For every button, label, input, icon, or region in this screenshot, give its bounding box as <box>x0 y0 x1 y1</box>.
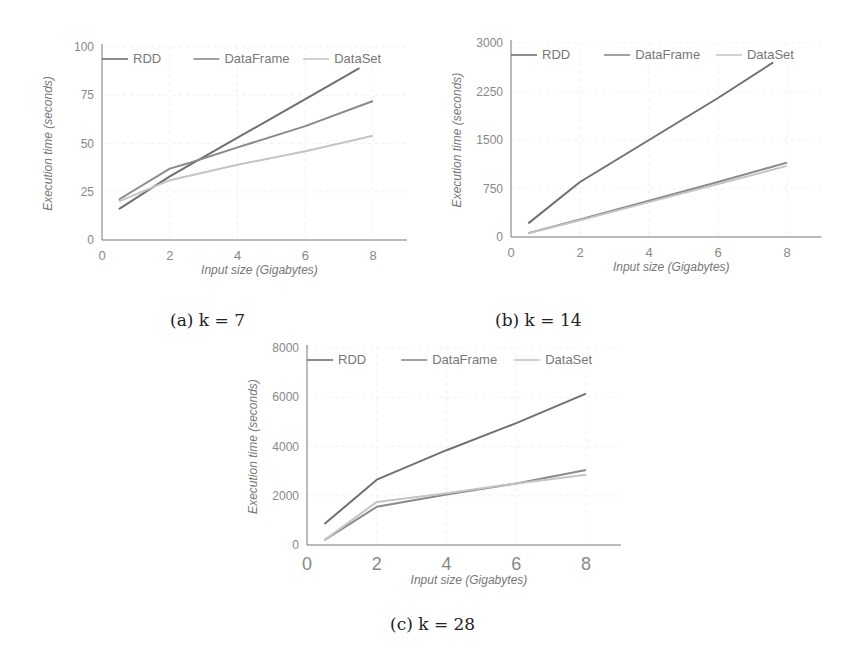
x-tick-label: 2 <box>372 554 382 574</box>
y-tick-label: 4000 <box>272 440 299 454</box>
line-chart-c: 0200040006000800002468Input size (Gigaby… <box>0 0 853 663</box>
chart-panel-c: 0200040006000800002468Input size (Gigaby… <box>0 0 853 663</box>
caption-c: (c) k = 28 <box>390 614 475 634</box>
y-axis-label: Execution time (seconds) <box>246 379 260 514</box>
legend-label-rdd: RDD <box>338 352 366 367</box>
grid <box>307 348 621 545</box>
legend: RDDDataFrameDataSet <box>307 352 593 367</box>
y-tick-label: 6000 <box>272 390 299 404</box>
y-tick-label: 2000 <box>272 489 299 503</box>
x-tick-label: 4 <box>441 554 451 574</box>
legend-label-dataframe: DataFrame <box>432 352 497 367</box>
y-tick-label: 8000 <box>272 341 299 355</box>
legend-label-dataset: DataSet <box>545 352 592 367</box>
y-tick-label: 0 <box>292 538 299 552</box>
x-tick-label: 6 <box>511 554 521 574</box>
series-line-dataset <box>324 475 586 540</box>
x-tick-label: 8 <box>581 554 591 574</box>
x-axis-label: Input size (Gigabytes) <box>411 573 528 587</box>
series-line-rdd <box>324 394 586 524</box>
x-tick-label: 0 <box>302 554 312 574</box>
